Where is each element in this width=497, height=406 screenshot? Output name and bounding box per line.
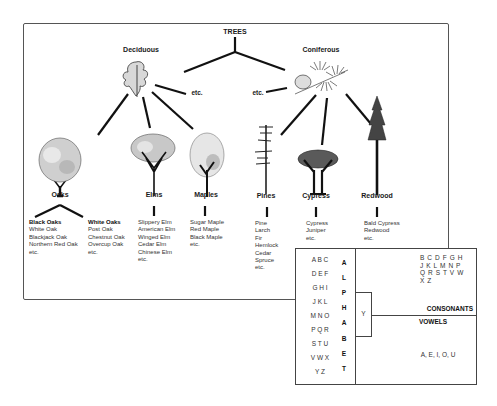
redwood-tree-icon	[368, 96, 386, 195]
letter-group: P Q R	[300, 326, 340, 333]
maples-list: Sugar Maple Red Maple Black Maple etc.	[190, 219, 224, 249]
list-item: Pine	[255, 220, 278, 227]
tree-label-cypress: Cypress	[296, 192, 336, 199]
list-item: Hemlock	[255, 242, 278, 249]
list-item: Spruce	[255, 257, 278, 264]
root-label-trees: TREES	[215, 28, 255, 35]
letter-group: S T U	[300, 340, 340, 347]
list-item: Winged Elm	[138, 234, 175, 241]
consonants-label: CONSONANTS	[403, 305, 473, 312]
list-item: etc.	[255, 264, 278, 271]
word-letter: L	[339, 274, 349, 281]
alphabet-diagram: Y A B C D E F G H I J K L M N O P Q R S …	[295, 248, 477, 385]
list-item: etc.	[29, 249, 78, 256]
letter-group: D E F	[300, 270, 340, 277]
black-oaks-list: Black Oaks White Oak Blackjack Oak North…	[29, 219, 78, 256]
consonant-row: B C D F G H	[420, 254, 464, 262]
branch-label-coniferous: Coniferous	[296, 46, 346, 53]
list-item: Northern Red Oak	[29, 241, 78, 248]
deciduous-etc-label: etc.	[187, 89, 207, 96]
word-letter: H	[339, 304, 349, 311]
list-item: Overcup Oak	[88, 241, 125, 248]
list-item: Larch	[255, 227, 278, 234]
letter-group: G H I	[300, 284, 340, 291]
white-oaks-list: White Oaks Post Oak Chestnut Oak Overcup…	[88, 219, 125, 256]
list-item: Black Maple	[190, 234, 224, 241]
word-letter: A	[339, 319, 349, 326]
consonant-row: J K L M N P	[420, 262, 464, 270]
oak-tree-icon	[39, 138, 81, 196]
maple-tree-icon	[190, 133, 224, 197]
list-item: Cedar	[255, 250, 278, 257]
tree-label-maples: Maples	[186, 191, 226, 198]
consonant-row: Q R S T V W	[420, 269, 464, 277]
tree-label-oaks: Oaks	[40, 191, 80, 198]
list-item: Chinese Elm	[138, 249, 175, 256]
letter-group: A B C	[300, 256, 340, 263]
list-header: White Oaks	[88, 219, 125, 226]
list-item: Sugar Maple	[190, 219, 224, 226]
vowels-list: A, E, I, O, U	[403, 351, 473, 358]
elms-list: Slippery Elm American Elm Winged Elm Ced…	[138, 219, 175, 263]
consonant-vowel-divider	[372, 315, 476, 316]
y-label: Y	[356, 310, 371, 317]
letter-group: M N O	[300, 312, 340, 319]
pine-tree-icon	[255, 125, 273, 194]
elm-tree-icon	[131, 134, 175, 196]
coniferous-etc-label: etc.	[248, 89, 268, 96]
cypress-list: Cypress Juniper etc.	[306, 220, 328, 242]
list-item: Juniper	[306, 227, 328, 234]
word-letter: A	[339, 259, 349, 266]
vowels-label: VOWELS	[403, 318, 463, 325]
redwood-list: Bald Cypress Redwood etc.	[364, 220, 400, 242]
list-item: etc.	[138, 256, 175, 263]
oak-leaf-icon	[123, 62, 148, 97]
letter-group: J K L	[300, 298, 340, 305]
list-item: etc.	[364, 235, 400, 242]
list-item: White Oak	[29, 226, 78, 233]
word-letter: T	[339, 365, 349, 372]
list-item: Blackjack Oak	[29, 234, 78, 241]
list-item: Red Maple	[190, 226, 224, 233]
list-item: Cypress	[306, 220, 328, 227]
list-item: Post Oak	[88, 226, 125, 233]
tree-label-pines: Pines	[246, 192, 286, 199]
tree-label-elms: Elms	[134, 191, 174, 198]
letter-group: V W X	[300, 354, 340, 361]
list-item: Chestnut Oak	[88, 234, 125, 241]
cypress-tree-icon	[298, 150, 338, 194]
word-letter: B	[339, 335, 349, 342]
pine-branch-icon	[295, 61, 348, 94]
consonants-list: B C D F G H J K L M N P Q R S T V W X Z	[420, 254, 464, 284]
list-item: American Elm	[138, 226, 175, 233]
list-item: etc.	[190, 241, 224, 248]
word-letter: P	[339, 289, 349, 296]
list-item: Redwood	[364, 227, 400, 234]
letter-group: Y Z	[300, 368, 340, 375]
list-item: Bald Cypress	[364, 220, 400, 227]
list-item: Fir	[255, 235, 278, 242]
pines-list: Pine Larch Fir Hemlock Cedar Spruce etc.	[255, 220, 278, 272]
list-header: Black Oaks	[29, 219, 78, 226]
consonant-row: X Z	[420, 277, 464, 285]
word-letter: E	[339, 350, 349, 357]
list-item: Slippery Elm	[138, 219, 175, 226]
list-item: etc.	[306, 235, 328, 242]
list-item: Cedar Elm	[138, 241, 175, 248]
tree-label-redwood: Redwood	[354, 192, 400, 199]
list-item: etc.	[88, 249, 125, 256]
branch-label-deciduous: Deciduous	[116, 46, 166, 53]
